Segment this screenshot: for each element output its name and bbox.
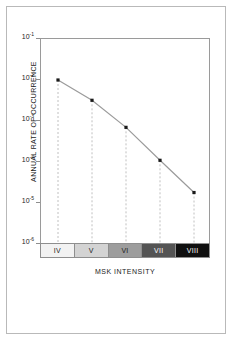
intensity-cell-label: VI <box>121 247 128 254</box>
intensity-cell-label: IV <box>54 247 61 254</box>
plot-area <box>40 38 210 243</box>
intensity-cell-iv: IV <box>41 244 75 257</box>
data-point-marker <box>158 159 161 162</box>
x-axis-title: MSK INTENSITY <box>40 268 210 275</box>
data-point-marker <box>56 78 59 81</box>
figure-root: ANNUAL RATE OF OCCURRENCE 10-110-210-310… <box>0 0 232 340</box>
intensity-cell-v: V <box>75 244 109 257</box>
intensity-cell-label: V <box>89 247 94 254</box>
data-point-marker <box>90 99 93 102</box>
intensity-cell-vii: VII <box>142 244 176 257</box>
data-layer <box>41 39 209 243</box>
intensity-cell-label: VIII <box>187 247 199 254</box>
intensity-cell-label: VII <box>154 247 163 254</box>
data-point-marker <box>192 191 195 194</box>
intensity-cell-vi: VI <box>109 244 143 257</box>
data-point-marker <box>124 126 127 129</box>
msk-intensity-bar: IVVVIVIIVIII <box>40 243 210 258</box>
intensity-cell-viii: VIII <box>176 244 209 257</box>
data-series-svg <box>1 1 232 340</box>
